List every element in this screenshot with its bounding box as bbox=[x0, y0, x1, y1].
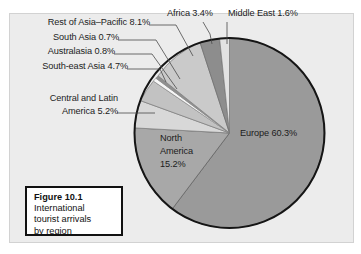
label-south-asia: South Asia 0.7% bbox=[0, 32, 119, 44]
label-australasia: Australasia 0.8% bbox=[0, 46, 115, 58]
figure-caption-box: Figure 10.1 International tourist arriva… bbox=[25, 186, 123, 236]
label-north-america-line3: 15.2% bbox=[160, 159, 186, 171]
figure-caption-line-2: tourist arrivals bbox=[34, 214, 115, 225]
label-middle-east: Middle East 1.6% bbox=[228, 8, 298, 20]
label-north-america-line2: America bbox=[160, 146, 193, 158]
label-central-latin-america-line1: Central and Latin bbox=[0, 93, 118, 105]
label-rest-of-asia-pacific: Rest of Asia–Pacific 8.1% bbox=[0, 17, 150, 29]
label-south-east-asia: South-east Asia 4.7% bbox=[0, 61, 128, 73]
figure-caption-line-3: by region bbox=[34, 226, 115, 237]
label-north-america-line1: North bbox=[160, 133, 182, 145]
label-africa: Africa 3.4% bbox=[167, 8, 213, 20]
figure-screenshot: Rest of Asia–Pacific 8.1% South Asia 0.7… bbox=[0, 0, 361, 254]
label-europe: Europe 60.3% bbox=[240, 128, 297, 140]
label-central-latin-america-line2: America 5.2% bbox=[0, 106, 118, 118]
figure-caption-line-1: International bbox=[34, 203, 115, 214]
figure-caption-title: Figure 10.1 bbox=[34, 192, 115, 203]
